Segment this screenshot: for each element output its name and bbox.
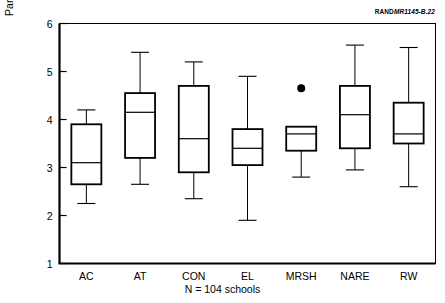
box-iqr — [340, 86, 370, 148]
box-iqr — [125, 93, 155, 158]
outlier-point — [297, 84, 305, 92]
box-iqr — [71, 124, 101, 184]
y-tick-label: 5 — [47, 66, 53, 78]
x-axis-label-el: EL — [241, 270, 254, 282]
y-tick-label: 2 — [47, 210, 53, 222]
x-axis-label-nare: NARE — [340, 270, 369, 282]
box-iqr — [179, 86, 209, 172]
plot-area: 123456 ACATCONELMRSHNARERW — [0, 0, 445, 303]
y-tick-label: 4 — [47, 114, 53, 126]
box-iqr — [286, 127, 316, 151]
y-tick-label: 3 — [47, 162, 53, 174]
x-axis-label-ac: AC — [79, 270, 94, 282]
x-axis-category-labels: ACATCONELMRSHNARERW — [79, 270, 417, 282]
x-axis-label-mrsh: MRSH — [286, 270, 317, 282]
x-axis-label-con: CON — [182, 270, 205, 282]
y-tick-label: 1 — [47, 258, 53, 270]
box-iqr — [394, 103, 424, 144]
box-iqr — [233, 129, 263, 165]
y-tick-label: 6 — [47, 18, 53, 30]
boxplot-figure: RANDMR1145-B.22 Parents and community ar… — [0, 0, 445, 303]
x-axis-caption: N = 104 schools — [0, 283, 445, 295]
x-axis-label-rw: RW — [400, 270, 417, 282]
x-axis-label-at: AT — [134, 270, 147, 282]
